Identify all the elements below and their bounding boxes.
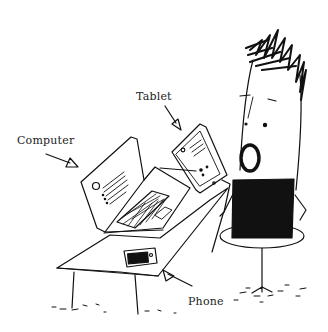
illustration-canvas: Computer Tablet Phone [0, 0, 328, 332]
laptop-computer [81, 137, 190, 233]
label-computer: Computer [17, 134, 74, 147]
cartoon-drawing [0, 0, 328, 332]
person [212, 30, 306, 302]
label-phone: Phone [188, 295, 224, 308]
label-tablet: Tablet [136, 90, 172, 103]
phone [124, 248, 157, 267]
label-arrows [46, 106, 192, 286]
tablet [160, 124, 230, 216]
